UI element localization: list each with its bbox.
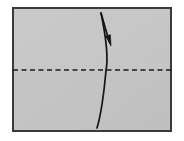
paper-sheet-shading-upper: [14, 9, 170, 69]
paper-sheet-shading-lower: [14, 70, 170, 130]
origami-diagram: [0, 0, 184, 141]
origami-diagram-canvas: [0, 0, 184, 141]
